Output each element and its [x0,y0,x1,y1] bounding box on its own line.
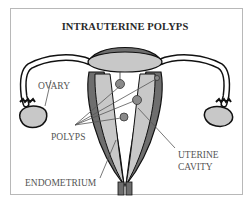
polyps-label: POLYPS [51,132,85,142]
left-ovary [20,106,47,128]
left-uterine-wall [88,72,124,185]
right-fallopian-tube [160,58,231,104]
diagram-title: INTRAUTERINE POLYPS [0,21,250,32]
uterine-label: UTERINE [178,150,219,160]
fundal-cavity [88,52,162,72]
right-ovary [204,107,232,127]
ovary-label: OVARY [38,81,70,91]
cavity-label: CAVITY [178,162,213,172]
endometrium-label: ENDOMETRIUM [25,178,96,188]
cervix [118,182,132,195]
